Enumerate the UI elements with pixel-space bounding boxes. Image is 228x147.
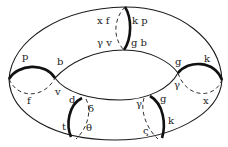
left-section-dashed xyxy=(9,78,55,94)
top-meridian-solid xyxy=(124,7,130,50)
label-b: b xyxy=(57,56,63,67)
label-f: f xyxy=(27,95,32,106)
label-t: t xyxy=(62,121,66,132)
bottom-left-meridian-dashed xyxy=(76,99,89,139)
torus-diagram: x f k p γ v g b p b v f g k γ x d t δ θ … xyxy=(0,0,228,147)
label-k-right: k xyxy=(204,53,211,64)
label-k-br: k xyxy=(168,115,175,126)
label-g-br: g xyxy=(160,93,167,104)
right-section-dashed xyxy=(178,73,222,94)
label-theta: θ xyxy=(86,122,92,133)
right-section-solid xyxy=(178,64,222,80)
label-p: p xyxy=(22,51,28,62)
label-sigma: ς xyxy=(143,125,149,136)
label-g-right: g xyxy=(175,56,182,67)
torus-outer-boundary xyxy=(9,7,222,140)
label-gamma-right: γ xyxy=(174,79,180,90)
label-v: v xyxy=(54,86,61,97)
label-gamma-br: γ xyxy=(136,98,142,109)
label-gb: g b xyxy=(131,37,147,48)
label-delta: δ xyxy=(88,103,94,114)
label-xf: x f xyxy=(97,15,111,26)
label-kp: k p xyxy=(132,15,148,26)
label-x: x xyxy=(203,95,209,106)
top-meridian-dashed xyxy=(116,7,125,50)
label-d: d xyxy=(69,94,76,105)
label-gamma-v: γ v xyxy=(97,37,112,48)
left-section-solid xyxy=(9,67,55,79)
